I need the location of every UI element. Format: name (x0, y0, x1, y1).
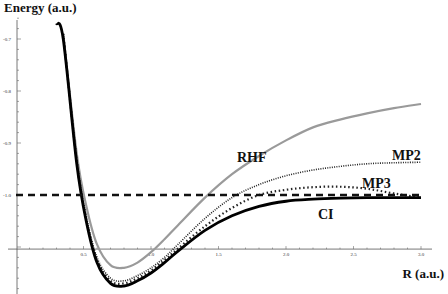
x-tick-label: 2.5 (351, 252, 358, 257)
label-mp2: MP2 (392, 148, 421, 164)
x-tick-label: 3.0 (418, 252, 425, 257)
label-ci: CI (318, 207, 334, 223)
label-rhf: RHF (237, 150, 267, 166)
label-mp3: MP3 (362, 176, 391, 192)
y-axis-label: Energy (a.u.) (4, 0, 77, 16)
y-tick-label: -1.0 (3, 193, 11, 198)
x-axis-label: R (a.u.) (402, 266, 444, 282)
y-tick-label: -0.7 (3, 37, 11, 42)
x-tick-label: 2.0 (283, 252, 290, 257)
x-tick-label: 1.5 (216, 252, 223, 257)
axes: -0.7-0.8-0.9-1.00.51.01.52.02.53.0 (3, 18, 432, 294)
y-tick-label: -0.9 (3, 141, 11, 146)
y-tick-label: -0.8 (3, 89, 11, 94)
energy-plot: -0.7-0.8-0.9-1.00.51.01.52.02.53.0 (0, 0, 448, 294)
x-tick-label: 0.5 (81, 252, 88, 257)
